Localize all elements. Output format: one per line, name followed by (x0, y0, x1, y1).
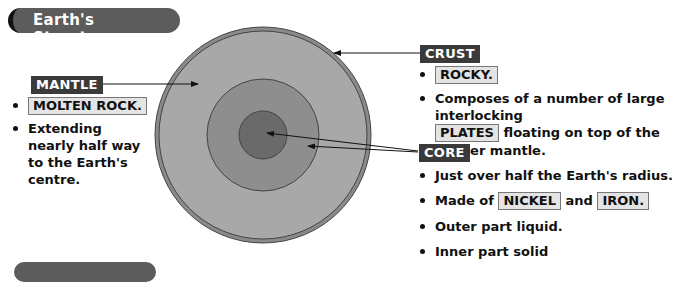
mantle-label: MANTLE (31, 76, 103, 94)
crust-label: CRUST (420, 45, 480, 63)
mantle-facts: MOLTEN ROCK. Extending nearly half way t… (10, 97, 150, 193)
fact-text: Composes of a number of large interlocki… (435, 91, 664, 123)
mantle-fact: Extending nearly half way to the Earth's… (10, 120, 150, 188)
core-fact: Inner part solid (417, 243, 683, 260)
crust-fact: ROCKY. (417, 66, 683, 84)
mantle-fact: MOLTEN ROCK. (10, 97, 150, 115)
fact-text: Made of (435, 193, 494, 208)
highlight-box: NICKEL (498, 192, 561, 210)
highlight-box: ROCKY. (435, 66, 498, 84)
core-facts: Just over half the Earth's radius. Made … (417, 167, 683, 268)
core-fact: Just over half the Earth's radius. (417, 167, 683, 184)
highlight-box: MOLTEN ROCK. (28, 97, 147, 115)
highlight-box: IRON. (597, 192, 649, 210)
core-fact: Outer part liquid. (417, 218, 683, 235)
fact-text: and (566, 193, 593, 208)
core-fact: Made of NICKEL and IRON. (417, 192, 683, 210)
core-label: CORE (419, 144, 470, 162)
highlight-box: PLATES (435, 124, 499, 142)
